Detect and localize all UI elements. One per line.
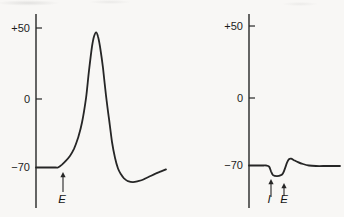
ipsp-epsp-trace (249, 159, 340, 176)
membrane-potential-figure: +500−70E+500−70IE (0, 0, 344, 217)
y-tick-label: 0 (237, 92, 243, 104)
stimulus-arrowhead-E (60, 172, 65, 177)
ipsp-epsp-trace-panel: +500−70IE (224, 14, 340, 208)
y-tick-label: 0 (24, 93, 30, 105)
figure-canvas: +500−70E+500−70IE (0, 0, 344, 217)
stimulus-arrowhead-I (268, 179, 273, 184)
y-tick-label: +50 (11, 22, 30, 34)
action-potential-trace-panel: +500−70E (11, 14, 166, 208)
y-tick-label: +50 (224, 20, 243, 32)
y-tick-label: −70 (11, 161, 30, 173)
y-tick-label: −70 (224, 159, 243, 171)
stimulus-label-E: E (280, 193, 288, 205)
stimulus-arrowhead-E (281, 183, 286, 188)
stimulus-label-E: E (58, 193, 66, 205)
action-potential-trace (36, 32, 166, 182)
